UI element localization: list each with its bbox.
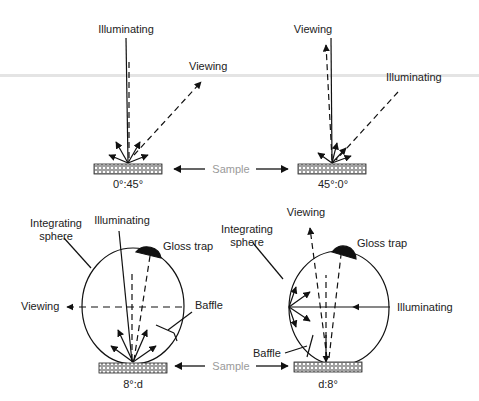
sphere-label-line1: Integrating — [221, 223, 273, 235]
panel-45-0 — [298, 38, 398, 174]
sample-block — [298, 164, 366, 174]
gloss-trap — [136, 247, 161, 258]
viewing-label: Viewing — [189, 60, 227, 72]
sample-label: Sample — [212, 163, 249, 175]
illuminating-label: Illuminating — [98, 23, 154, 35]
baffle-label: Baffle — [253, 347, 281, 359]
baffle-label: Baffle — [195, 299, 223, 311]
sphere-label-line1: Integrating — [30, 217, 82, 229]
geometry-label: 45°:0° — [318, 178, 348, 190]
sphere-label-line2: sphere — [39, 230, 73, 242]
viewing-label: Viewing — [287, 206, 325, 218]
viewing-label: Viewing — [21, 300, 59, 312]
viewing-label: Viewing — [294, 23, 332, 35]
sample-block — [294, 362, 362, 372]
illuminating-ray — [126, 38, 128, 163]
illuminating-ray — [119, 231, 132, 362]
gloss-trap-label: Gloss trap — [357, 237, 407, 249]
geometry-label: 0°:45° — [113, 178, 143, 190]
illuminating-label: Illuminating — [94, 214, 150, 226]
diagram-graphics — [0, 0, 479, 401]
sample-label: Sample — [212, 360, 249, 372]
integrating-sphere — [82, 248, 184, 364]
sample-block — [94, 164, 162, 174]
panel-0-45 — [94, 38, 201, 174]
geometry-label: 8°:d — [123, 378, 143, 390]
viewing-ray — [134, 82, 201, 155]
measurement-geometry-diagram: Illuminating Viewing 0°:45° Viewing Illu… — [0, 0, 479, 401]
gloss-trap — [332, 246, 356, 259]
sphere-label-line2: sphere — [230, 236, 264, 248]
illuminating-label: Illuminating — [397, 301, 453, 313]
geometry-label: d:8° — [318, 378, 338, 390]
sample-block — [99, 363, 167, 373]
panel-8-d — [64, 231, 192, 373]
illuminating-label: Illuminating — [386, 71, 442, 83]
gloss-trap-label: Gloss trap — [163, 240, 213, 252]
illuminating-ray — [336, 92, 398, 160]
